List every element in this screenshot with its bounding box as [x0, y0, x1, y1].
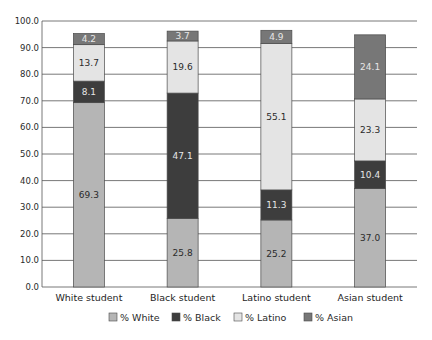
legend-swatch-icon	[234, 313, 242, 321]
y-tick-label: 0.0	[25, 282, 39, 292]
y-tick-label: 20.0	[20, 229, 39, 239]
segment-value-label: 13.7	[79, 58, 99, 68]
legend-label: % White	[120, 312, 160, 323]
segment-value-label: 25.2	[266, 249, 286, 259]
segment-value-label: 37.0	[360, 233, 380, 243]
segment-value-label: 11.3	[266, 200, 286, 210]
segment-value-label: 10.4	[360, 170, 380, 180]
segment-value-label: 55.1	[266, 112, 286, 122]
legend-swatch-icon	[109, 313, 117, 321]
bar-black-student: 25.847.119.63.7	[167, 31, 198, 287]
x-category-label: Asian student	[337, 292, 403, 303]
segment-value-label: 24.1	[360, 62, 380, 72]
bars: 69.38.113.74.225.847.119.63.725.211.355.…	[73, 30, 385, 287]
segment-value-label: 23.3	[360, 125, 380, 135]
y-tick-label: 70.0	[20, 96, 39, 106]
legend-label: % Latino	[245, 312, 287, 323]
y-tick-label: 30.0	[20, 202, 39, 212]
y-tick-label: 40.0	[20, 176, 39, 186]
x-category-label: White student	[55, 292, 122, 303]
segment-value-label: 8.1	[82, 87, 96, 97]
y-tick-label: 10.0	[20, 255, 39, 265]
segment-value-label: 19.6	[173, 62, 193, 72]
x-category-label: Black student	[150, 292, 215, 303]
legend-item: % Latino	[234, 312, 287, 323]
stacked-bar-chart: 0.010.020.030.040.050.060.070.080.090.01…	[0, 0, 432, 340]
legend-swatch-icon	[172, 313, 180, 321]
bar-latino-student: 25.211.355.14.9	[261, 30, 292, 287]
y-tick-label: 80.0	[20, 69, 39, 79]
legend-swatch-icon	[304, 313, 312, 321]
y-tick-label: 50.0	[20, 149, 39, 159]
x-category-label: Latino student	[242, 292, 311, 303]
legend-item: % White	[109, 312, 160, 323]
segment-value-label: 4.2	[82, 34, 96, 44]
segment-value-label: 25.8	[173, 248, 193, 258]
y-axis: 0.010.020.030.040.050.060.070.080.090.01…	[15, 16, 42, 292]
segment-value-label: 47.1	[173, 151, 193, 161]
y-tick-label: 90.0	[20, 43, 39, 53]
segment-value-label: 69.3	[79, 190, 99, 200]
bar-asian-student: 37.010.423.324.1	[355, 35, 386, 287]
y-tick-label: 100.0	[15, 16, 39, 26]
y-tick-label: 60.0	[20, 122, 39, 132]
segment-value-label: 3.7	[175, 31, 189, 41]
segment-value-label: 4.9	[269, 32, 284, 42]
legend-label: % Asian	[315, 312, 353, 323]
legend: % White% Black% Latino% Asian	[109, 312, 353, 323]
legend-item: % Black	[172, 312, 221, 323]
bar-white-student: 69.38.113.74.2	[73, 34, 104, 287]
x-axis: White studentBlack studentLatino student…	[55, 292, 403, 303]
legend-item: % Asian	[304, 312, 353, 323]
legend-label: % Black	[183, 312, 221, 323]
